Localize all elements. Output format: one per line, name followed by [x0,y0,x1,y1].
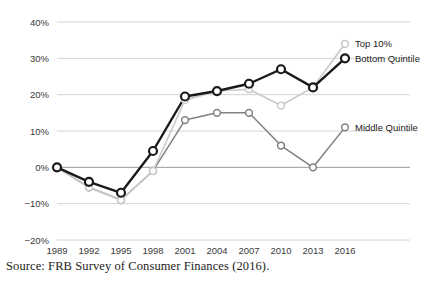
x-axis-tick-label: 2010 [270,245,291,255]
legend-label-bottom: Bottom Quintile [355,53,420,64]
data-point-bottom [85,178,93,186]
x-axis-tick-label: 2013 [302,245,323,255]
data-point-bottom [53,163,61,171]
y-axis-tick-labels: −20%−10%0%10%20%30%40% [24,17,49,246]
data-point-middle [342,124,349,131]
y-axis-tick-label: −20% [24,235,49,246]
source-note: Source: FRB Survey of Consumer Finances … [6,259,269,274]
x-axis-tick-labels: 1989199219951998200120042007201020132016 [46,245,355,255]
figure-container: −20%−10%0%10%20%30%40% 19891992199519982… [0,0,432,283]
data-point-bottom [277,65,285,73]
y-axis-tick-label: 20% [30,89,50,100]
series-line-bottom [57,58,345,192]
chart-plot-area: −20%−10%0%10%20%30%40% 19891992199519982… [0,0,432,255]
series-line-middle [57,113,345,200]
data-point-bottom [181,92,189,100]
y-axis-tick-label: 30% [30,53,50,64]
x-axis-tick-label: 1992 [78,245,99,255]
series-lines-group [57,44,345,200]
data-point-middle [182,117,189,124]
x-axis-tick-label: 1995 [110,245,131,255]
line-chart-svg: −20%−10%0%10%20%30%40% 19891992199519982… [0,0,432,255]
legend-label-top10: Top 10% [355,38,393,49]
x-axis-tick-label: 1989 [46,245,67,255]
series-markers-group [53,40,349,203]
y-axis-tick-label: 0% [35,162,49,173]
data-point-bottom [149,147,157,155]
legend-group: Middle QuintileTop 10%Bottom Quintile [355,38,420,133]
x-axis-tick-label: 2001 [174,245,195,255]
legend-label-middle: Middle Quintile [355,122,418,133]
x-axis-tick-label: 1998 [142,245,163,255]
data-point-bottom [117,189,125,197]
data-point-middle [214,109,221,116]
data-point-middle [246,109,253,116]
y-axis-tick-label: −10% [24,198,49,209]
data-point-bottom [341,54,349,62]
x-axis-tick-label: 2016 [334,245,355,255]
series-line-top10 [57,44,345,200]
data-point-bottom [245,80,253,88]
y-axis-tick-label: 40% [30,17,50,28]
data-point-bottom [309,83,317,91]
data-point-top10 [150,168,157,175]
x-axis-tick-label: 2004 [206,245,227,255]
data-point-bottom [213,87,221,95]
data-point-top10 [342,40,349,47]
data-point-middle [278,142,285,149]
y-axis-tick-label: 10% [30,126,50,137]
data-point-middle [310,164,317,171]
data-point-top10 [278,102,285,109]
x-axis-tick-label: 2007 [238,245,259,255]
